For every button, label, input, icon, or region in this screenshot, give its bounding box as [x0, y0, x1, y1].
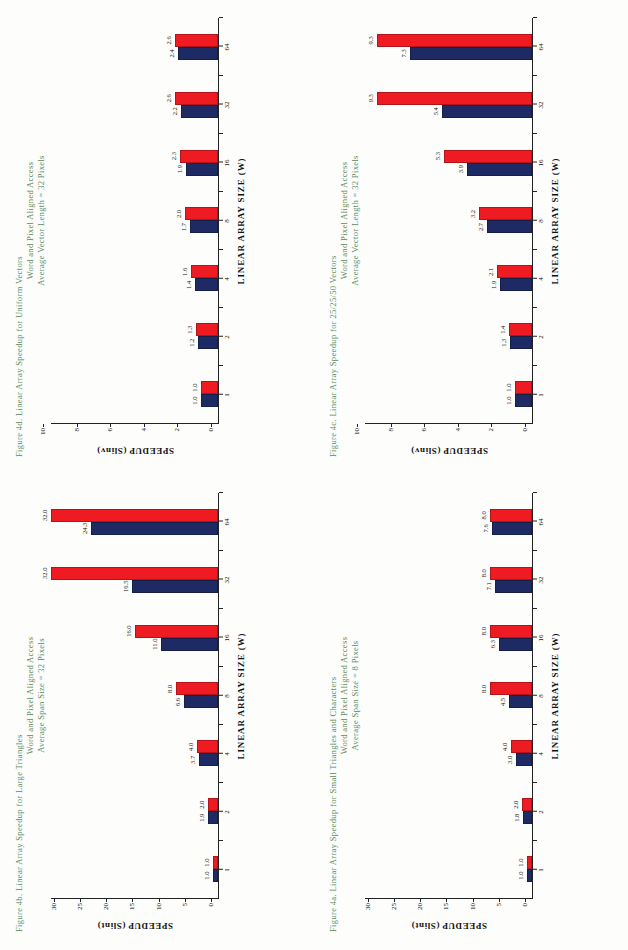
bar-value-label: 8.0 [480, 569, 487, 577]
y-tick-label: 20 [416, 899, 424, 910]
x-minor-tick [533, 75, 537, 76]
bar-navy: 1.3 [510, 336, 532, 349]
bar-red: 3.2 [479, 208, 532, 221]
bar-navy: 3.9 [467, 163, 532, 176]
x-minor-tick [533, 724, 537, 725]
caption-line-3: Average Vector Length = 32 Pixels [350, 18, 361, 457]
bar-value-label: 7.3 [400, 49, 407, 57]
figure-4a: Figure 4a. Linear Array Speedup for Smal… [314, 475, 628, 950]
bar-value-label: 1.0 [505, 384, 512, 392]
figure-4c: Figure 4c. Linear Array Speedup for 25/2… [314, 0, 628, 475]
bar-navy: 2.2 [181, 105, 218, 118]
x-tick-label: 2 [219, 810, 231, 814]
x-minor-tick [219, 191, 223, 192]
bar-navy: 1.0 [515, 394, 532, 407]
figure-4b-bars: 1.01.01.92.03.74.06.68.011.016.016.532.0… [51, 493, 218, 898]
bar-value-label: 1.0 [191, 397, 198, 405]
x-minor-tick [219, 75, 223, 76]
bar-value-label: 1.0 [505, 397, 512, 405]
caption-line-1: Figure 4b. Linear Array Speedup for Larg… [14, 493, 25, 932]
figure-4a-plot: 1.01.01.82.03.04.04.58.06.38.07.18.07.68… [365, 493, 533, 899]
bar-red: 8.0 [490, 625, 532, 638]
x-tick-label: 2 [533, 335, 545, 339]
x-tick-label: 64 [219, 44, 231, 51]
bar-value-label: 1.7 [180, 223, 187, 231]
x-minor-tick [219, 608, 223, 609]
x-minor-tick [219, 365, 223, 366]
bar-red: 4.0 [511, 740, 532, 753]
y-tick-label: 2 [487, 424, 495, 432]
x-minor-tick [533, 492, 537, 493]
bar-navy: 6.3 [499, 638, 532, 651]
figure-4a-x-ticks: 1248163264 [533, 493, 549, 899]
bar-navy: 24.3 [91, 522, 218, 535]
x-tick-label: 16 [533, 160, 545, 167]
figure-4b-plot-area: SPEEDUP (Slint) 051015202530 1.01.01.92.… [51, 493, 219, 932]
y-tick-label: 5 [181, 899, 189, 907]
bar-value-label: 4.5 [499, 698, 506, 706]
x-minor-tick [533, 249, 537, 250]
bar-value-label: 32.0 [41, 510, 48, 521]
x-tick-label: 8 [219, 694, 231, 698]
figure-4a-caption: Figure 4a. Linear Array Speedup for Smal… [328, 493, 361, 932]
y-tick-label: 15 [442, 899, 450, 910]
x-minor-tick [219, 550, 223, 551]
bar-value-label: 5.4 [432, 107, 439, 115]
bar-group: 1.01.0 [51, 365, 218, 423]
bar-navy: 1.0 [213, 869, 218, 882]
bar-value-label: 2.6 [165, 94, 172, 102]
figure-4b-caption: Figure 4b. Linear Array Speedup for Larg… [14, 493, 47, 932]
x-tick-label: 1 [219, 868, 231, 872]
bar-red: 2.3 [180, 150, 218, 163]
y-tick-label: 10 [469, 899, 477, 910]
bar-red: 1.0 [527, 856, 532, 869]
x-minor-tick [219, 840, 223, 841]
x-minor-tick [533, 307, 537, 308]
y-tick-label: 20 [102, 899, 110, 910]
caption-line-1: Figure 4c. Linear Array Speedup for 25/2… [328, 18, 339, 457]
figure-4d-plot-area: SPEEDUP (Slinv) 0246810 1.01.01.21.31.41… [51, 18, 219, 457]
bar-value-label: 16.5 [122, 581, 129, 592]
bar-red: 9.3 [377, 34, 532, 47]
bar-group: 1.92.0 [51, 782, 218, 840]
x-minor-tick [533, 191, 537, 192]
bar-navy: 1.4 [195, 278, 218, 291]
bar-group: 1.01.0 [365, 840, 532, 898]
bar-group: 1.31.4 [365, 307, 532, 365]
x-tick-label: 64 [533, 519, 545, 526]
figure-4a-bars: 1.01.01.82.03.04.04.58.06.38.07.18.07.68… [365, 493, 532, 898]
caption-line-2: Word and Pixel Aligned Access [339, 493, 350, 932]
figure-4b-plot: 1.01.01.92.03.74.06.68.011.016.016.532.0… [51, 493, 219, 899]
bar-value-label: 3.9 [457, 165, 464, 173]
bar-red: 2.0 [185, 208, 218, 221]
x-minor-tick [533, 840, 537, 841]
x-tick-label: 32 [219, 102, 231, 109]
bar-value-label: 1.6 [181, 268, 188, 276]
figure-4c-x-axis-label: LINEAR ARRAY SIZE (W) [550, 18, 560, 424]
bar-navy: 7.3 [410, 47, 532, 60]
bar-red: 8.0 [176, 683, 218, 696]
x-minor-tick [533, 782, 537, 783]
bar-red: 1.4 [509, 323, 532, 336]
y-tick-label: 6 [420, 424, 428, 432]
x-minor-tick [219, 492, 223, 493]
figure-4b-y-ticks: 051015202530 [51, 899, 219, 919]
figure-4c-caption: Figure 4c. Linear Array Speedup for 25/2… [328, 18, 361, 457]
x-tick-label: 16 [219, 635, 231, 642]
figure-4c-plot-area: SPEEDUP (Slinv) 0246810 1.01.01.31.41.92… [365, 18, 533, 457]
bar-navy: 3.0 [516, 753, 532, 766]
bar-value-label: 3.7 [189, 756, 196, 764]
bar-value-label: 1.0 [203, 859, 210, 867]
bar-red: 16.0 [135, 625, 219, 638]
bar-value-label: 1.3 [500, 339, 507, 347]
bar-navy: 1.7 [190, 221, 218, 234]
figure-4b-x-ticks: 1248163264 [219, 493, 235, 899]
y-tick-label: 4 [140, 424, 148, 432]
bar-value-label: 1.4 [185, 281, 192, 289]
x-tick-label: 32 [533, 102, 545, 109]
caption-line-2: Word and Pixel Aligned Access [339, 18, 350, 457]
bar-red: 2.1 [497, 265, 532, 278]
figure-4a-x-axis-label: LINEAR ARRAY SIZE (W) [550, 493, 560, 899]
bar-value-label: 1.4 [499, 326, 506, 334]
x-tick-label: 2 [219, 335, 231, 339]
